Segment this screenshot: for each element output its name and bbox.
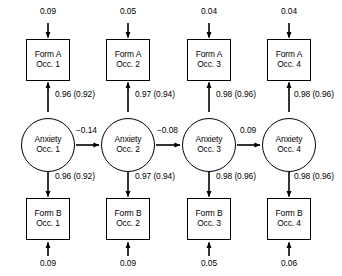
node-form-b-occ-3[interactable]: Form B Occ. 3 <box>187 198 231 240</box>
structural-path-label-1: −0.14 <box>76 125 97 135</box>
node-form-a-occ-3[interactable]: Form A Occ. 3 <box>187 39 231 81</box>
loading-label-formB-1: 0.96 (0.92) <box>55 171 95 181</box>
node-label-occasion: Occ. 3 <box>197 145 221 155</box>
residual-label-formA-3: 0.04 <box>189 6 229 16</box>
loading-label-formB-4: 0.98 (0.96) <box>294 171 334 181</box>
loading-label-formA-1: 0.96 (0.92) <box>55 89 95 99</box>
loading-label-formA-4: 0.98 (0.96) <box>294 89 334 99</box>
loading-label-formB-2: 0.97 (0.94) <box>135 171 175 181</box>
node-form-a-occ-1[interactable]: Form A Occ. 1 <box>26 39 70 81</box>
residual-label-formB-4: 0.06 <box>269 258 309 268</box>
node-label-occasion: Occ. 4 <box>277 60 301 70</box>
node-form-a-occ-4[interactable]: Form A Occ. 4 <box>267 39 311 81</box>
loading-label-formA-3: 0.98 (0.96) <box>216 89 256 99</box>
node-form-b-occ-2[interactable]: Form B Occ. 2 <box>106 198 150 240</box>
node-label-occasion: Occ. 2 <box>116 145 140 155</box>
residual-label-formB-3: 0.05 <box>189 258 229 268</box>
node-label-occasion: Occ. 2 <box>116 60 140 70</box>
node-label-occasion: Occ. 1 <box>36 145 60 155</box>
node-anxiety-occ-1[interactable]: Anxiety Occ. 1 <box>21 118 75 172</box>
node-label-occasion: Occ. 2 <box>116 219 140 229</box>
node-label-occasion: Occ. 4 <box>277 145 301 155</box>
node-anxiety-occ-2[interactable]: Anxiety Occ. 2 <box>101 118 155 172</box>
node-form-b-occ-4[interactable]: Form B Occ. 4 <box>267 198 311 240</box>
structural-path-label-3: 0.09 <box>240 125 256 135</box>
node-label-occasion: Occ. 3 <box>197 219 221 229</box>
residual-label-formA-2: 0.05 <box>108 6 148 16</box>
path-diagram: 0.09 0.05 0.04 0.04 Form A Occ. 1 Form A… <box>0 0 342 276</box>
node-anxiety-occ-3[interactable]: Anxiety Occ. 3 <box>182 118 236 172</box>
residual-label-formA-1: 0.09 <box>28 6 68 16</box>
structural-path-label-2: −0.08 <box>157 125 178 135</box>
loading-label-formA-2: 0.97 (0.94) <box>135 89 175 99</box>
residual-label-formB-2: 0.09 <box>108 258 148 268</box>
node-form-a-occ-2[interactable]: Form A Occ. 2 <box>106 39 150 81</box>
node-label-occasion: Occ. 3 <box>197 60 221 70</box>
residual-label-formB-1: 0.09 <box>28 258 68 268</box>
node-label-occasion: Occ. 4 <box>277 219 301 229</box>
node-label-occasion: Occ. 1 <box>36 60 60 70</box>
node-label-occasion: Occ. 1 <box>36 219 60 229</box>
node-form-b-occ-1[interactable]: Form B Occ. 1 <box>26 198 70 240</box>
node-anxiety-occ-4[interactable]: Anxiety Occ. 4 <box>262 118 316 172</box>
residual-label-formA-4: 0.04 <box>269 6 309 16</box>
loading-label-formB-3: 0.98 (0.96) <box>216 171 256 181</box>
